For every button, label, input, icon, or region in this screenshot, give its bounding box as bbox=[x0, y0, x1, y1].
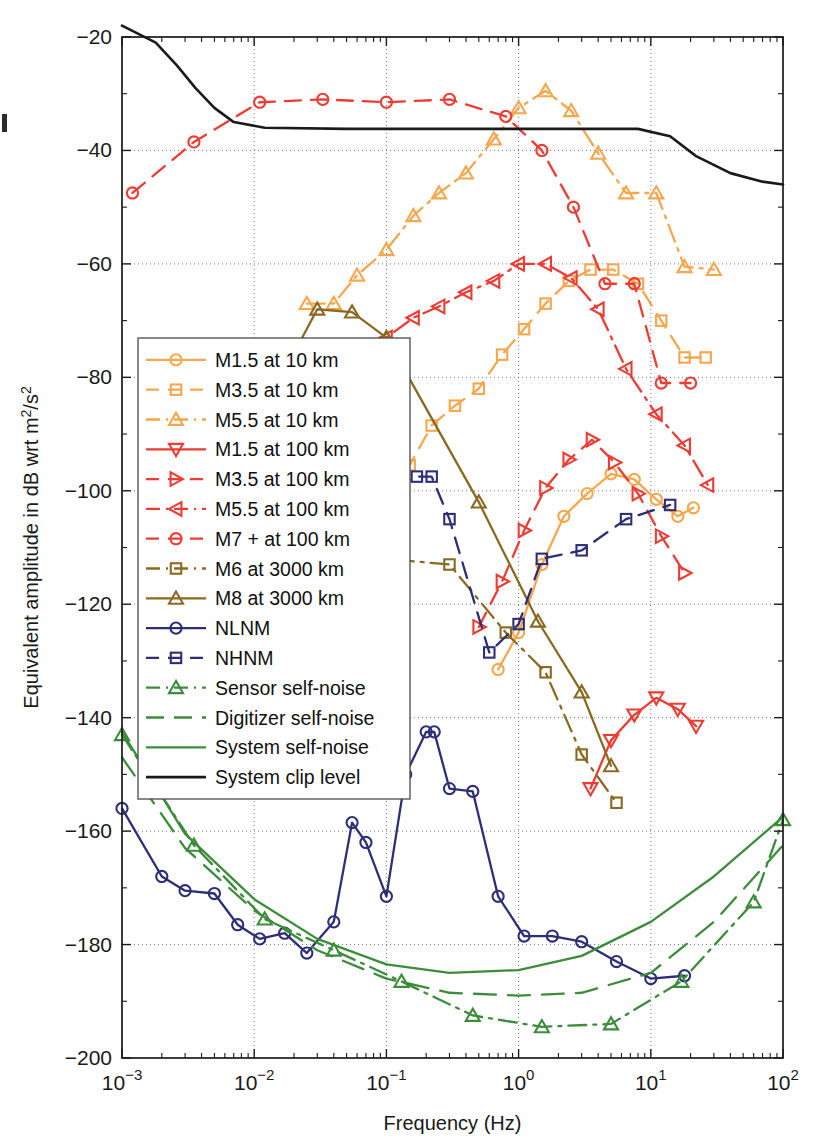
series-line bbox=[307, 91, 714, 304]
y-tick-label: −120 bbox=[65, 592, 112, 615]
legend-item-label: NHNM bbox=[215, 647, 274, 669]
data-point-triangle-left bbox=[591, 303, 603, 317]
legend-item-label: M1.5 at 10 km bbox=[215, 349, 339, 371]
x-tick-label: 100 bbox=[503, 1066, 535, 1094]
y-tick-label: −80 bbox=[76, 365, 112, 388]
y-tick-label: −40 bbox=[76, 138, 112, 161]
legend-item-label: M6 at 3000 km bbox=[215, 558, 344, 580]
legend-item-label: M8 at 3000 km bbox=[215, 587, 344, 609]
x-tick-label: 102 bbox=[767, 1066, 799, 1094]
legend-layer: M1.5 at 10 kmM3.5 at 10 kmM5.5 at 10 kmM… bbox=[138, 338, 410, 799]
legend-item-label: M1.5 at 100 km bbox=[215, 438, 349, 460]
data-point-triangle-up bbox=[747, 895, 761, 907]
y-tick-label: −180 bbox=[65, 933, 112, 956]
series-line bbox=[479, 440, 685, 627]
x-tick-label: 10−3 bbox=[102, 1066, 142, 1094]
y-tick-label: −160 bbox=[65, 819, 112, 842]
legend-item-label: Digitizer self-noise bbox=[215, 707, 374, 729]
y-tick-label: −20 bbox=[76, 25, 112, 48]
legend-item-label: M3.5 at 10 km bbox=[215, 379, 339, 401]
legend-item-label: System self-noise bbox=[215, 736, 369, 758]
x-tick-label: 10−2 bbox=[234, 1066, 274, 1094]
legend-item-label: M7 + at 100 km bbox=[215, 528, 350, 550]
legend-item-label: M5.5 at 100 km bbox=[215, 498, 349, 520]
y-tick-label: −100 bbox=[65, 479, 112, 502]
x-tick-label: 10−1 bbox=[366, 1066, 406, 1094]
figure-root: 10−310−210−1100101102−20−40−60−80−100−12… bbox=[0, 0, 820, 1145]
y-axis-title: Equivalent amplitude in dB wrt m2/s2 bbox=[18, 386, 42, 709]
legend-item-label: NLNM bbox=[215, 617, 270, 639]
series-m3-5-at-10-km bbox=[381, 264, 711, 493]
legend-item-label: Sensor self-noise bbox=[215, 677, 366, 699]
legend-item-label: M3.5 at 100 km bbox=[215, 468, 349, 490]
legend-item-label: M5.5 at 10 km bbox=[215, 409, 339, 431]
data-point-triangle-right bbox=[679, 566, 691, 580]
y-tick-label: −140 bbox=[65, 706, 112, 729]
data-point-triangle-right bbox=[609, 456, 621, 470]
y-tick-label: −60 bbox=[76, 252, 112, 275]
x-tick-label: 101 bbox=[635, 1066, 667, 1094]
series-m3-5-at-100-km bbox=[473, 433, 691, 634]
y-tick-label: −200 bbox=[65, 1046, 112, 1069]
seismic-noise-chart: 10−310−210−1100101102−20−40−60−80−100−12… bbox=[0, 0, 820, 1145]
x-axis-title: Frequency (Hz) bbox=[384, 1112, 522, 1134]
legend-item-label: System clip level bbox=[215, 766, 360, 788]
page-edge-mark bbox=[2, 114, 7, 132]
svg-text:Equivalent amplitude in dB wrt: Equivalent amplitude in dB wrt m2/s2 bbox=[18, 386, 42, 709]
